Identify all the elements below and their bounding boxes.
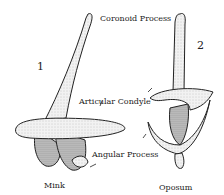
figure-number-2: 2 — [197, 40, 204, 51]
oposum-caption: Oposum — [159, 184, 192, 192]
articular-condyle-label: Articular Condyle — [79, 98, 151, 106]
coronoid-process-label: Coronoid Process — [100, 15, 171, 23]
figure-number-1: 1 — [37, 61, 44, 72]
mink-caption: Mink — [44, 182, 65, 190]
oposum-mandible — [148, 13, 213, 168]
angular-process-label: Angular Process — [92, 151, 158, 159]
mink-mandible — [16, 14, 125, 171]
